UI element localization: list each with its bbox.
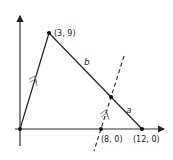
point-apex xyxy=(47,31,51,35)
label-segment-b: b xyxy=(84,57,90,67)
label-right-vertex: (12, 0) xyxy=(133,135,160,144)
side-origin-to-apex xyxy=(20,33,49,129)
point-intersection xyxy=(109,95,113,99)
point-dashed-base xyxy=(99,127,103,131)
label-dashed-base: (8, 0) xyxy=(101,135,123,144)
point-origin xyxy=(18,127,22,131)
geometry-diagram: (3, 9) b a (8, 0) (12, 0) xyxy=(0,0,173,160)
point-right-vertex xyxy=(140,127,144,131)
label-segment-a: a xyxy=(126,105,132,115)
label-apex: (3, 9) xyxy=(54,29,76,38)
